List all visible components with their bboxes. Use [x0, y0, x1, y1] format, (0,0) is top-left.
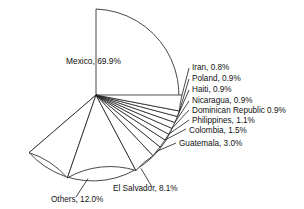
pie-label-mexico: Mexico, 69.9% — [66, 56, 121, 66]
pie-label-dominican-republic: Dominican Republic 0.9% — [192, 106, 286, 115]
pie-chart-figure: Mexico, 69.9% Iran, 0.8% Poland, 0.9% Ha… — [0, 0, 304, 209]
pie-chart-svg: Mexico, 69.9% Iran, 0.8% Poland, 0.9% Ha… — [0, 0, 304, 209]
pie-label-nicaragua: Nicaragua, 0.9% — [192, 96, 253, 105]
pie-label-iran: Iran, 0.8% — [192, 63, 229, 72]
pie-label-haiti: Haiti, 0.9% — [192, 85, 232, 94]
pie-label-others: Others, 12.0% — [51, 195, 103, 204]
pie-label-colombia: Colombia, 1.5% — [189, 126, 247, 135]
pie-label-philippines: Philippines, 1.1% — [192, 116, 255, 125]
pie-slices — [29, 9, 182, 181]
pie-label-guatemala: Guatemala, 3.0% — [179, 139, 242, 148]
pie-label-el-salvador: El Salvador, 8.1% — [113, 184, 178, 193]
pie-label-poland: Poland, 0.9% — [192, 74, 241, 83]
